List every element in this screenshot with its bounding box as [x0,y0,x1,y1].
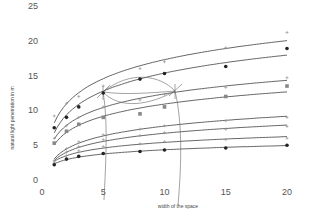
data-point-marker [224,146,228,150]
data-point-marker [163,72,167,76]
arrow-annotations [97,77,182,205]
data-point-marker [52,126,56,130]
data-point-marker [163,105,167,109]
vertical-arc-right [175,91,181,205]
data-point-marker [65,157,69,161]
data-point-marker [65,129,69,133]
x-tick-label: 0 [39,187,44,197]
y-tick-label: 0 [33,175,38,185]
x-tick-label: 5 [101,187,106,197]
fit-curve [54,41,287,123]
data-point-marker [286,76,289,79]
data-point-marker [77,123,81,127]
data-point-marker [139,67,142,70]
data-point-marker [77,105,81,109]
data-point-marker [163,148,167,152]
x-axis-ticks: 05101520 [39,187,292,197]
y-tick-label: 15 [28,71,38,81]
data-point-marker [102,138,105,141]
y-tick-label: 25 [28,1,38,11]
data-point-marker [102,85,105,88]
data-point-marker [224,65,228,69]
fit-curve [54,80,287,139]
x-tick-label: 10 [159,187,169,197]
data-point-marker [163,124,166,127]
fit-curve [54,125,287,160]
data-point-marker [285,84,289,88]
y-axis-label: natural light penetration in m [9,86,15,149]
data-point-marker [138,150,142,154]
fit-curve [54,146,287,164]
y-tick-label: 5 [33,140,38,150]
fitted-curves [54,41,287,164]
y-axis-ticks: 0510152025 [28,1,38,185]
data-point-marker [285,143,289,147]
data-point-marker [77,95,80,98]
data-point-marker [52,141,56,145]
x-axis-label: width of the space [158,203,199,209]
line-chart: 0510152025 05101520 natural light penetr… [0,0,309,224]
data-point-marker [224,95,228,99]
data-point-marker [286,31,289,34]
data-point-marker [101,152,105,156]
data-point-marker [101,116,105,120]
data-point-marker [139,134,142,137]
data-point-marker [139,142,142,145]
data-point-marker [65,116,69,120]
y-tick-label: 10 [28,105,38,115]
data-point-marker [286,137,289,140]
y-tick-label: 20 [28,36,38,46]
data-point-marker [163,60,166,63]
data-point-marker [139,128,142,131]
data-point-marker [77,155,81,159]
x-tick-label: 20 [282,187,292,197]
data-point-marker [285,47,289,51]
data-point-marker [101,91,105,95]
x-tick-label: 15 [221,187,231,197]
data-point-marker [138,112,142,116]
fit-curve [54,137,287,162]
data-point-marker [53,114,56,117]
data-point-marker [138,77,142,81]
chart-container: 0510152025 05101520 natural light penetr… [0,0,309,224]
data-point-marker [52,163,56,167]
data-point-marker [65,154,68,157]
